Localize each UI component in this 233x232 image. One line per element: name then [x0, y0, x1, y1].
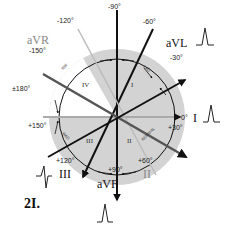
angle-label-p150: +150° [28, 122, 47, 129]
aVL-waveform [196, 28, 214, 45]
angle-label-m120: -120° [57, 17, 74, 24]
angle-label-m90: -90° [108, 3, 121, 10]
angle-label-m150: -150° [29, 47, 46, 54]
quadrant-label-2: II [127, 137, 132, 145]
lead-label-aVR: aVR [27, 33, 49, 47]
aVF-waveform [97, 204, 113, 222]
arc-label-nw: NW [60, 62, 68, 70]
angle-label-0: 0° [181, 114, 188, 121]
angle-label-p30: +30° [168, 124, 183, 131]
angle-label-m60: -60° [143, 18, 156, 25]
lead-label-I: I [193, 111, 197, 125]
hexaxial-diagram: -90° -60° -30° 0° +30° +60° +90° +120° +… [0, 0, 233, 232]
angle-label-m30: -30° [170, 54, 183, 61]
lead-label-aVL: aVL [166, 36, 187, 50]
III-waveform [36, 166, 52, 188]
quadrant-label-3: III [86, 137, 94, 145]
quadrant-label-4: IV [82, 81, 89, 89]
I-waveform [203, 105, 220, 122]
angle-label-p60: +60° [138, 157, 153, 164]
figure-label: 2I. [24, 196, 40, 211]
angle-label-p90: +90° [108, 166, 123, 173]
angle-label-pm180: ±180° [12, 85, 31, 92]
lead-label-III: III [59, 167, 71, 181]
angle-label-p120: +120° [56, 157, 75, 164]
lead-label-aVF: aVF [97, 177, 118, 191]
lead-label-II: II [143, 167, 151, 181]
